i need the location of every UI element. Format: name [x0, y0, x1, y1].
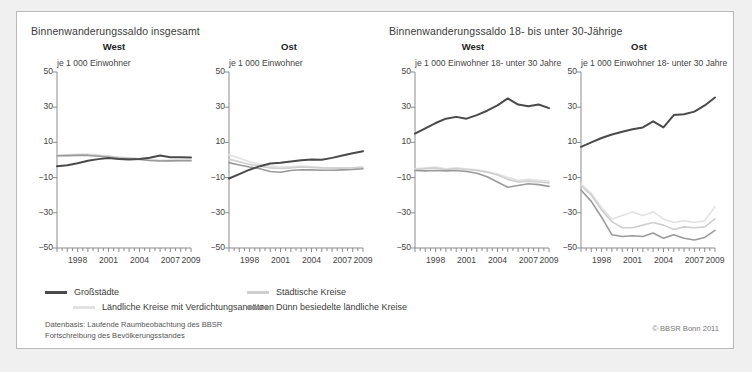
y-axis-tick-label: 30 [203, 101, 225, 111]
x-axis-tick-label: 2009 [353, 255, 372, 265]
x-axis-tick-label: 2001 [271, 255, 290, 265]
figure-panel: Binnenwanderungssaldo insgesamt Binnenwa… [16, 11, 734, 349]
legend-swatch-icon [45, 291, 67, 294]
source-line-2: Fortschreibung des Bevölkerungsstandes [45, 330, 222, 341]
group-title-right: Binnenwanderungssaldo 18- bis unter 30-J… [389, 25, 622, 37]
panel-unit-label: je 1 000 Einwohner [229, 58, 303, 68]
plot-area [415, 72, 549, 248]
y-axis-tick-label: 10 [31, 136, 53, 146]
legend-row: Großstädte Städtische Kreise [45, 287, 465, 302]
legend-swatch-icon [73, 306, 95, 309]
x-axis-tick-label: 1998 [240, 255, 259, 265]
x-axis-tick-label: 2004 [302, 255, 321, 265]
panel-title: Ost [203, 41, 375, 52]
plot-area [229, 72, 363, 248]
group-title-left: Binnenwanderungssaldo insgesamt [31, 25, 200, 37]
plot-area [57, 72, 191, 248]
x-axis-tick-label: 2007 [161, 255, 180, 265]
data-source-note: Datenbasis: Laufende Raumbeobachtung des… [45, 319, 222, 341]
y-axis-tick-label: 10 [203, 136, 225, 146]
y-axis-tick-label: −10 [31, 172, 53, 182]
y-axis-tick-label: 50 [203, 66, 225, 76]
x-axis-tick-label: 2004 [654, 255, 673, 265]
y-axis-tick-label: −10 [203, 172, 225, 182]
legend-item-duenn-besiedelt: Dünn besiedelte ländliche Kreise [247, 302, 407, 312]
y-axis-tick-label: −30 [389, 207, 411, 217]
chart-panel-young-ost: Ost je 1 000 Einwohner 18- unter 30 Jahr… [555, 41, 723, 276]
panel-unit-label: je 1 000 Einwohner 18- unter 30 Jahre [581, 58, 727, 68]
legend-swatch-icon [247, 291, 269, 294]
panel-unit-label: je 1 000 Einwohner 18- unter 30 Jahre [415, 58, 561, 68]
y-axis-tick-label: 30 [555, 101, 577, 111]
chart-panel-total-ost: Ost je 1 000 Einwohner 503010−10−30−5019… [203, 41, 375, 276]
x-axis-tick-label: 1998 [592, 255, 611, 265]
y-axis-tick-label: −50 [555, 242, 577, 252]
x-axis-tick-label: 1998 [68, 255, 87, 265]
x-axis-tick-label: 2001 [457, 255, 476, 265]
x-axis-tick-label: 1998 [426, 255, 445, 265]
source-line-1: Datenbasis: Laufende Raumbeobachtung des… [45, 319, 222, 330]
x-axis-tick-label: 2004 [130, 255, 149, 265]
y-axis-tick-label: 30 [389, 101, 411, 111]
chart-panel-young-west: West je 1 000 Einwohner 18- unter 30 Jah… [389, 41, 557, 276]
y-axis-tick-label: −30 [31, 207, 53, 217]
plot-area [581, 72, 715, 248]
y-axis-tick-label: −30 [555, 207, 577, 217]
legend-row: Ländliche Kreise mit Verdichtungsansätze… [45, 302, 465, 317]
copyright-note: © BBSR Bonn 2011 [652, 324, 719, 333]
y-axis-tick-label: 30 [31, 101, 53, 111]
panel-unit-label: je 1 000 Einwohner [57, 58, 131, 68]
panel-title: West [389, 41, 557, 52]
y-axis-tick-label: −50 [389, 242, 411, 252]
y-axis-tick-label: 50 [555, 66, 577, 76]
legend-swatch-icon [247, 306, 269, 309]
y-axis-tick-label: 50 [389, 66, 411, 76]
legend: Großstädte Städtische Kreise Ländliche K… [45, 287, 465, 317]
y-axis-tick-label: −10 [389, 172, 411, 182]
legend-label: Dünn besiedelte ländliche Kreise [276, 302, 407, 312]
y-axis-tick-label: −50 [31, 242, 53, 252]
x-axis-tick-label: 2004 [488, 255, 507, 265]
legend-item-grossstaedte: Großstädte [45, 287, 119, 297]
y-axis-tick-label: −50 [203, 242, 225, 252]
y-axis-tick-label: 10 [389, 136, 411, 146]
y-axis-tick-label: 10 [555, 136, 577, 146]
y-axis-tick-label: 50 [31, 66, 53, 76]
panel-title: West [31, 41, 197, 52]
legend-item-laendliche-verdichtung: Ländliche Kreise mit Verdichtungsansätze… [73, 302, 274, 312]
x-axis-tick-label: 2007 [333, 255, 352, 265]
x-axis-tick-label: 2009 [181, 255, 200, 265]
x-axis-tick-label: 2001 [99, 255, 118, 265]
y-axis-tick-label: −30 [203, 207, 225, 217]
x-axis-tick-label: 2007 [519, 255, 538, 265]
legend-label: Großstädte [74, 287, 119, 297]
x-axis-tick-label: 2001 [623, 255, 642, 265]
x-axis-tick-label: 2007 [685, 255, 704, 265]
y-axis-tick-label: −10 [555, 172, 577, 182]
legend-label: Städtische Kreise [276, 287, 346, 297]
legend-item-staedtische: Städtische Kreise [247, 287, 346, 297]
chart-panel-total-west: West je 1 000 Einwohner 503010−10−30−501… [31, 41, 197, 276]
panel-title: Ost [555, 41, 723, 52]
x-axis-tick-label: 2009 [705, 255, 724, 265]
